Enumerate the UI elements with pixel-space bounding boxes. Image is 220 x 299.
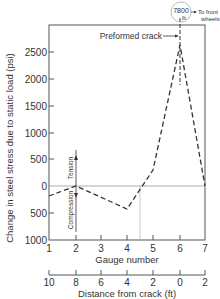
direction-label-2: wheels xyxy=(200,16,220,22)
x-tick-label: 1 xyxy=(46,243,52,254)
y-tick-label: 500 xyxy=(30,154,47,165)
distance-axis xyxy=(49,270,205,275)
compression-label: Compression xyxy=(67,190,75,229)
x-tick-label: 5 xyxy=(150,243,156,254)
arrow-icon xyxy=(175,35,179,38)
y-tick-label: 1500 xyxy=(25,101,48,112)
y-tick-label: 1000 xyxy=(25,235,48,246)
distance-axis-label: Distance from crack (ft) xyxy=(78,288,176,299)
x-tick-label: 7 xyxy=(202,243,208,254)
y-axis-label: Change in steel stress due to static loa… xyxy=(4,53,15,243)
preformed-crack-label: Preformed crack xyxy=(100,31,163,41)
x-tick-label: 4 xyxy=(124,243,130,254)
x-axis-label: Gauge number xyxy=(95,254,158,265)
distance-tick-label: 0 xyxy=(177,277,183,288)
x-tick-label: 6 xyxy=(177,243,183,254)
y-tick-label: 500 xyxy=(30,208,47,219)
y-tick-label: 2000 xyxy=(25,74,48,85)
x-tick-label: 3 xyxy=(98,243,104,254)
distance-tick-label: 8 xyxy=(73,277,79,288)
y-axis xyxy=(49,52,54,213)
distance-tick-label: 6 xyxy=(98,277,104,288)
distance-tick-label: 4 xyxy=(124,277,130,288)
tension-label: Tension xyxy=(67,156,74,179)
distance-tick-label: 2 xyxy=(202,277,208,288)
stress-series-line xyxy=(49,45,205,209)
distance-tick-label: 10 xyxy=(43,277,55,288)
x-axis xyxy=(76,235,180,240)
y-tick-label: 2500 xyxy=(25,47,48,58)
y-tick-label: 1000 xyxy=(25,128,48,139)
load-unit: lb xyxy=(182,15,186,21)
chart: 2500 2000 1500 1000 500 0 500 1000 Chang… xyxy=(0,0,220,299)
load-value: 7800 xyxy=(173,7,189,14)
arrow-icon xyxy=(194,11,197,13)
direction-label: To front xyxy=(198,9,218,15)
tension-compression-indicator xyxy=(74,150,78,232)
x-tick-label: 2 xyxy=(73,243,79,254)
distance-tick-label: 2 xyxy=(150,277,156,288)
y-tick-label: 0 xyxy=(41,181,47,192)
